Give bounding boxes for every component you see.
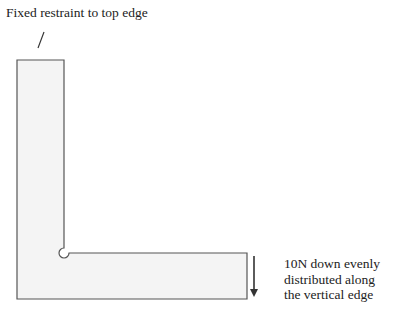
load-label-line-1: 10N down evenly xyxy=(284,256,380,272)
fillet-relief-circle xyxy=(59,248,69,258)
restraint-leader-line xyxy=(38,32,44,48)
load-label: 10N down evenly distributed along the ve… xyxy=(284,256,380,303)
restraint-label: Fixed restraint to top edge xyxy=(6,5,148,21)
load-label-line-2: distributed along xyxy=(284,272,380,288)
l-bracket-shape xyxy=(17,60,247,299)
load-arrow-icon xyxy=(250,256,258,297)
load-label-line-3: the vertical edge xyxy=(284,287,380,303)
